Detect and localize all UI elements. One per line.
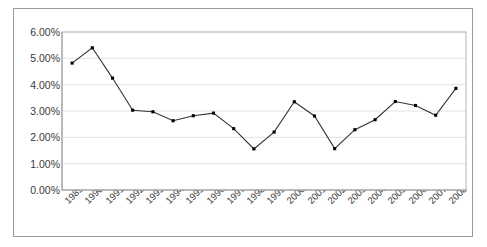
data-point-marker — [71, 62, 74, 65]
data-point-marker — [252, 147, 255, 150]
data-point-marker — [172, 119, 175, 122]
line-chart-svg — [0, 0, 487, 247]
data-point-marker — [313, 114, 316, 117]
data-point-marker — [394, 100, 397, 103]
data-point-marker — [131, 109, 134, 112]
data-point-marker — [414, 104, 417, 107]
data-point-marker — [374, 118, 377, 121]
data-point-marker — [333, 147, 336, 150]
data-point-marker — [212, 112, 215, 115]
data-point-marker — [151, 110, 154, 113]
data-point-marker — [111, 77, 114, 80]
plot-area — [0, 0, 487, 247]
data-point-marker — [293, 100, 296, 103]
data-point-marker — [91, 46, 94, 49]
chart-figure: 6.00%5.00%4.00%3.00%2.00%1.00%0.00% 1989… — [0, 0, 487, 247]
data-point-marker — [434, 114, 437, 117]
data-point-marker — [232, 127, 235, 130]
data-point-marker — [273, 131, 276, 134]
data-point-marker — [353, 128, 356, 131]
data-point-marker — [454, 87, 457, 90]
data-point-marker — [192, 114, 195, 117]
